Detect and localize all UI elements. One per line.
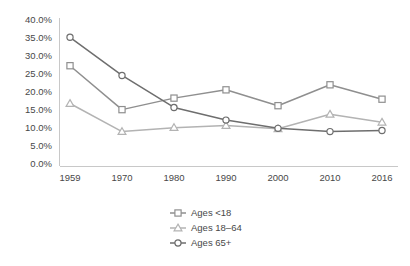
y-tick-label: 20.0%	[25, 86, 52, 97]
data-point-marker-square	[67, 63, 73, 69]
y-axis-tick-labels: 0.0%5.0%10.0%15.0%20.0%25.0%30.0%35.0%40…	[25, 14, 52, 169]
y-tick-label: 15.0%	[25, 104, 52, 115]
data-point-marker-square	[379, 96, 385, 102]
legend-item-2[interactable]: Ages 18–64	[170, 222, 242, 233]
data-point-marker-circle	[275, 125, 281, 131]
series-layer	[66, 34, 386, 135]
x-tick-label: 1980	[163, 172, 184, 183]
x-tick-label: 1959	[59, 172, 80, 183]
x-tick-label: 1970	[111, 172, 132, 183]
x-tick-label: 1990	[215, 172, 236, 183]
line-chart-poverty-rate-by-age: 0.0%5.0%10.0%15.0%20.0%25.0%30.0%35.0%40…	[0, 0, 410, 266]
legend-item-label: Ages 18–64	[191, 222, 242, 233]
data-point-marker-square	[175, 210, 181, 216]
y-tick-label: 0.0%	[30, 158, 52, 169]
y-tick-label: 5.0%	[30, 140, 52, 151]
data-point-marker-square	[119, 107, 125, 113]
data-point-marker-square	[275, 103, 281, 109]
x-tick-label: 2016	[371, 172, 392, 183]
y-tick-label: 40.0%	[25, 14, 52, 25]
series-3	[67, 34, 385, 135]
y-tick-label: 10.0%	[25, 122, 52, 133]
data-point-marker-circle	[223, 117, 229, 123]
data-point-marker-circle	[67, 34, 73, 40]
chart-legend: Ages <18Ages 18–64Ages 65+	[170, 207, 242, 248]
y-tick-label: 35.0%	[25, 32, 52, 43]
data-point-marker-circle	[175, 240, 181, 246]
legend-item-label: Ages <18	[191, 207, 231, 218]
data-point-marker-triangle	[326, 110, 334, 117]
data-point-marker-circle	[379, 127, 385, 133]
x-axis-tick-labels: 1959197019801990200020102016	[59, 172, 392, 183]
data-point-marker-square	[327, 82, 333, 88]
data-point-marker-circle	[119, 72, 125, 78]
legend-item-label: Ages 65+	[191, 237, 232, 248]
data-point-marker-circle	[327, 129, 333, 135]
x-tick-label: 2010	[319, 172, 340, 183]
legend-item-3[interactable]: Ages 65+	[170, 237, 232, 248]
data-point-marker-square	[171, 95, 177, 101]
data-point-marker-circle	[171, 104, 177, 110]
data-point-marker-square	[223, 87, 229, 93]
x-tick-label: 2000	[267, 172, 288, 183]
y-tick-label: 30.0%	[25, 50, 52, 61]
legend-item-1[interactable]: Ages <18	[170, 207, 231, 218]
data-point-marker-triangle	[66, 100, 74, 107]
chart-canvas: 0.0%5.0%10.0%15.0%20.0%25.0%30.0%35.0%40…	[0, 0, 410, 266]
y-tick-label: 25.0%	[25, 68, 52, 79]
